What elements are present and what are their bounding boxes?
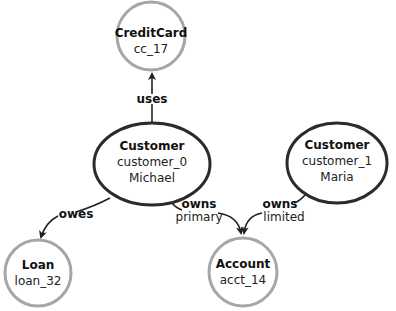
- node-id: loan_32: [15, 274, 62, 288]
- node-name: Maria: [320, 170, 353, 184]
- edge-label-uses: uses: [137, 92, 168, 106]
- edge-label-owns-primary: owns: [181, 197, 216, 211]
- node-type: Loan: [22, 258, 55, 272]
- node-type: Customer: [119, 139, 184, 153]
- edge-sublabel-limited: limited: [263, 210, 304, 224]
- edge-label-owes: owes: [59, 207, 94, 221]
- node-creditcard[interactable]: CreditCard cc_17: [115, 2, 188, 70]
- node-id: customer_0: [117, 155, 187, 169]
- edge-owes: owes: [41, 198, 110, 237]
- node-account[interactable]: Account acct_14: [209, 238, 277, 306]
- node-customer-1[interactable]: Customer customer_1 Maria: [287, 123, 387, 203]
- node-id: acct_14: [220, 273, 267, 287]
- node-name: Michael: [129, 171, 175, 185]
- node-type: CreditCard: [115, 26, 188, 40]
- edge-sublabel-primary: primary: [176, 210, 223, 224]
- edge-owns-limited: owns limited: [244, 195, 305, 233]
- edge-owns-primary: owns primary: [172, 197, 241, 233]
- edge-uses: uses: [137, 74, 168, 123]
- node-id: cc_17: [134, 42, 168, 56]
- graph-diagram: uses owes owns primary owns limited Cred…: [0, 0, 396, 311]
- node-type: Customer: [304, 138, 369, 152]
- node-customer-0[interactable]: Customer customer_0 Michael: [94, 123, 210, 205]
- edge-label-owns-limited: owns: [262, 197, 297, 211]
- node-type: Account: [216, 257, 271, 271]
- node-id: customer_1: [302, 154, 372, 168]
- node-loan[interactable]: Loan loan_32: [5, 240, 71, 306]
